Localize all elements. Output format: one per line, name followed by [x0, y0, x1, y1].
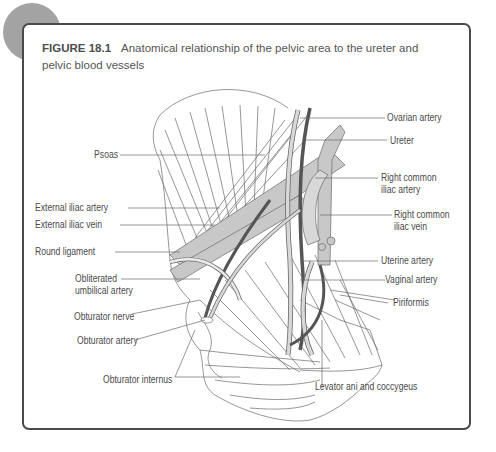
label-obliterated-umbilical-artery-2: umbilical artery: [75, 285, 133, 297]
label-levator-ani-and-coccygeus: Levator ani and coccygeus: [315, 381, 417, 393]
label-obliterated-umbilical-artery-1: Obliterated: [75, 273, 117, 285]
label-obturator-internus: Obturator internus: [103, 374, 172, 386]
label-psoas: Psoas: [68, 149, 118, 161]
label-obturator-nerve: Obturator nerve: [74, 311, 134, 323]
label-vaginal-artery: Vaginal artery: [385, 274, 437, 286]
label-external-iliac-vein: External iliac vein: [35, 219, 102, 231]
label-right-common-iliac-artery-2: iliac artery: [381, 184, 420, 196]
label-piriformis: Piriformis: [393, 297, 429, 309]
label-ureter: Ureter: [390, 135, 414, 147]
label-external-iliac-artery: External iliac artery: [35, 202, 108, 214]
label-right-common-iliac-artery-1: Right common: [381, 172, 436, 184]
label-right-common-iliac-vein-1: Right common: [394, 209, 449, 221]
label-right-common-iliac-vein-2: iliac vein: [394, 221, 427, 233]
label-obturator-artery: Obturator artery: [77, 335, 138, 347]
label-uterine-artery: Uterine artery: [381, 255, 433, 267]
label-round-ligament: Round ligament: [35, 246, 95, 258]
label-ovarian-artery: Ovarian artery: [387, 112, 441, 124]
